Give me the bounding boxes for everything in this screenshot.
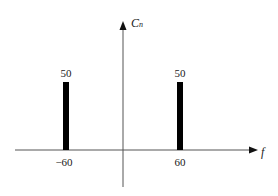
bar-neg-60 — [63, 82, 69, 150]
spectrum-chart: Cn f 50 50 −60 60 — [0, 0, 278, 196]
x-tick-label-neg-60: −60 — [55, 156, 72, 168]
y-axis-label-subscript: n — [139, 20, 143, 29]
x-axis-label: f — [261, 146, 264, 158]
y-axis-arrow-icon — [120, 21, 127, 30]
x-axis-arrow-icon — [249, 147, 258, 154]
bar-value-label-pos-60: 50 — [175, 67, 186, 79]
bar-pos-60 — [177, 82, 183, 150]
x-tick-label-pos-60: 60 — [175, 156, 186, 168]
bar-value-label-neg-60: 50 — [61, 67, 72, 79]
y-axis-label: Cn — [131, 17, 143, 31]
